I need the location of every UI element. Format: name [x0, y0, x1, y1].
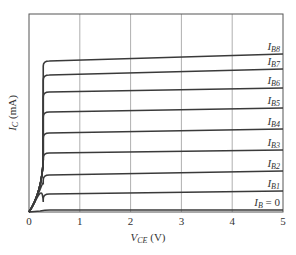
x-tick-label: 2 [128, 215, 134, 227]
curve-label: IB4 [266, 115, 280, 129]
curve-label: IB7 [266, 55, 281, 69]
x-tick-labels: 012345 [26, 215, 286, 227]
curve-label: IB3 [266, 136, 280, 150]
curve-label: IB1 [266, 177, 280, 191]
plot-frame [29, 14, 283, 212]
curve-label: IB6 [266, 74, 280, 88]
curve-i-b3 [29, 150, 283, 212]
characteristic-curves [29, 54, 283, 212]
x-axis-label: VCE (V) [131, 231, 166, 245]
x-tick-label: 0 [26, 215, 32, 227]
x-tick-label: 4 [229, 215, 235, 227]
curve-label: IB2 [266, 157, 280, 171]
x-tick-label: 1 [77, 215, 83, 227]
curve-label: IB8 [266, 40, 280, 54]
x-tick-label: 3 [179, 215, 185, 227]
curve-label: IB5 [266, 94, 280, 108]
vertical-gridlines [80, 14, 232, 212]
curve-i-b4 [29, 129, 283, 212]
curve-i-b1 [29, 191, 283, 212]
curve-i-b5 [29, 108, 283, 212]
y-axis-label: IC (mA) [6, 95, 20, 132]
curve-labels: IB = 0IB1IB2IB3IB4IB5IB6IB7IB8 [253, 40, 281, 210]
x-tick-label: 5 [280, 215, 286, 227]
bjt-output-characteristics-chart: IB = 0IB1IB2IB3IB4IB5IB6IB7IB8 012345 VC… [0, 0, 296, 255]
curve-label: IB = 0 [253, 196, 280, 210]
